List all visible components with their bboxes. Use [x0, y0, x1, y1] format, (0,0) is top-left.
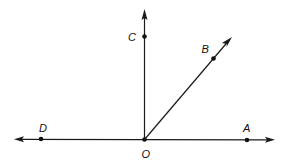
label-O: O: [142, 148, 151, 160]
point-C: [142, 34, 147, 39]
point-A: [245, 138, 250, 143]
ray-OB: [145, 42, 229, 140]
point-O: [142, 137, 147, 142]
point-B: [211, 56, 216, 61]
arrowhead-diagonal-icon: [222, 37, 232, 47]
label-A: A: [242, 122, 250, 134]
point-D: [39, 137, 44, 142]
label-D: D: [39, 122, 47, 134]
label-C: C: [128, 31, 136, 43]
label-B: B: [202, 43, 209, 55]
angle-diagram: O A B C D: [0, 0, 284, 168]
